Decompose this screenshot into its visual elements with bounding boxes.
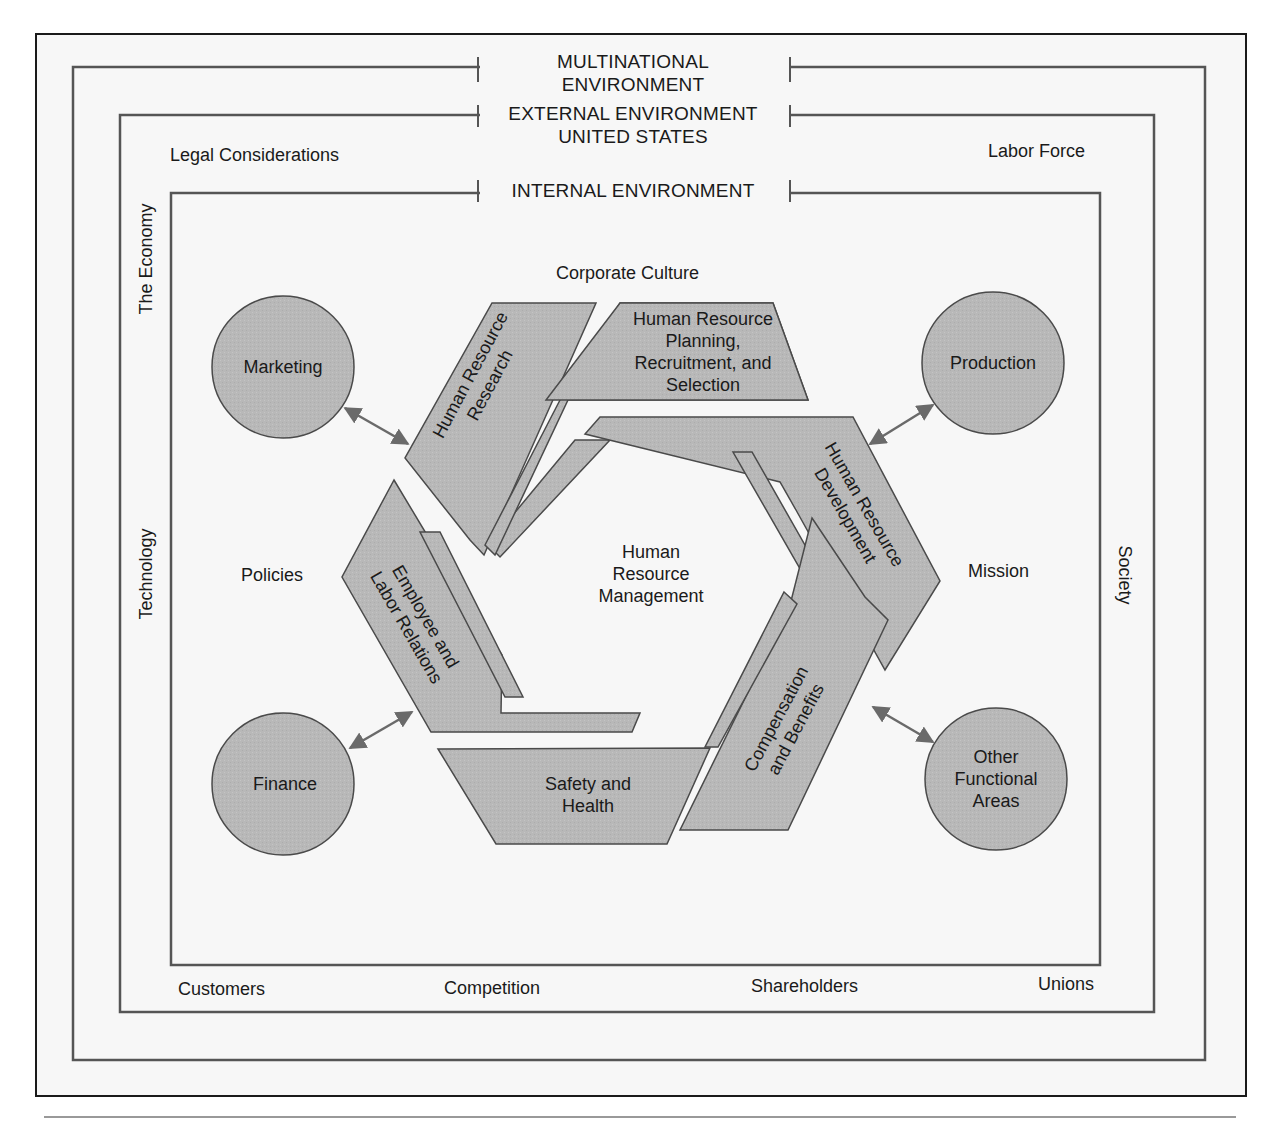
- mission-label: Mission: [968, 560, 1029, 582]
- unions-label: Unions: [1038, 973, 1094, 995]
- safety-health-label: Safety and Health: [545, 773, 631, 817]
- customers-label: Customers: [178, 978, 265, 1000]
- other-line1: Other: [954, 746, 1037, 768]
- safety-line1: Safety and: [545, 773, 631, 795]
- hr-planning-line1: Human Resource: [633, 308, 773, 330]
- competition-label: Competition: [444, 977, 540, 999]
- shareholders-label: Shareholders: [751, 975, 858, 997]
- hr-planning-line2: Planning,: [633, 330, 773, 352]
- external-line2: UNITED STATES: [508, 125, 757, 148]
- hrm-core-line1: Human: [598, 541, 703, 563]
- economy-label: The Economy: [135, 199, 157, 319]
- hr-planning-line3: Recruitment, and: [633, 352, 773, 374]
- marketing-label: Marketing: [243, 356, 322, 378]
- finance-label: Finance: [253, 773, 317, 795]
- other-line2: Functional: [954, 768, 1037, 790]
- multinational-line1: MULTINATIONAL: [557, 50, 709, 73]
- corporate-culture-label: Corporate Culture: [556, 262, 699, 284]
- external-environment-title: EXTERNAL ENVIRONMENT UNITED STATES: [508, 102, 757, 148]
- hrm-core-line2: Resource: [598, 563, 703, 585]
- hr-planning-line4: Selection: [633, 374, 773, 396]
- hrm-environment-diagram: MULTINATIONAL ENVIRONMENT EXTERNAL ENVIR…: [0, 0, 1263, 1127]
- hrm-core-label: Human Resource Management: [598, 541, 703, 607]
- hrm-core-line3: Management: [598, 585, 703, 607]
- production-label: Production: [950, 352, 1036, 374]
- safety-line2: Health: [545, 795, 631, 817]
- policies-label: Policies: [241, 564, 303, 586]
- technology-label: Technology: [135, 519, 157, 629]
- hr-planning-label: Human Resource Planning, Recruitment, an…: [633, 308, 773, 396]
- society-label: Society: [1114, 535, 1136, 615]
- legal-considerations-label: Legal Considerations: [170, 144, 339, 166]
- other-functional-areas-label: Other Functional Areas: [954, 746, 1037, 812]
- labor-force-label: Labor Force: [988, 140, 1085, 162]
- multinational-environment-title: MULTINATIONAL ENVIRONMENT: [557, 50, 709, 96]
- external-line1: EXTERNAL ENVIRONMENT: [508, 102, 757, 125]
- internal-line1: INTERNAL ENVIRONMENT: [512, 179, 755, 202]
- other-line3: Areas: [954, 790, 1037, 812]
- multinational-line2: ENVIRONMENT: [557, 73, 709, 96]
- internal-environment-title: INTERNAL ENVIRONMENT: [512, 179, 755, 202]
